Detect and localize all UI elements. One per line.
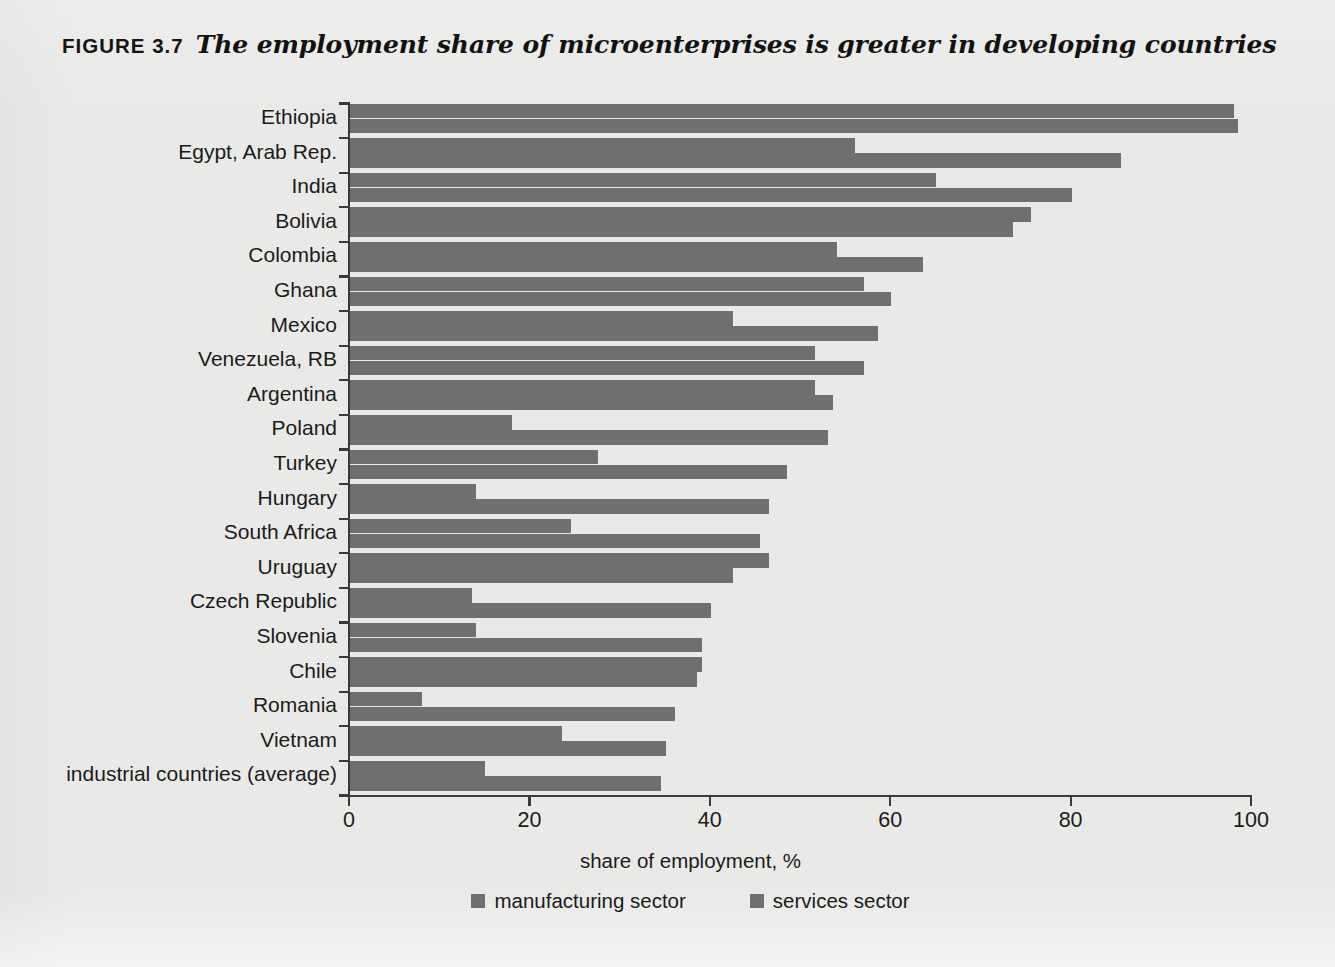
bar-manufacturing <box>350 623 476 638</box>
chart-row: Uruguay <box>349 553 1251 588</box>
x-axis-tick <box>528 795 530 806</box>
legend-label: manufacturing sector <box>494 889 685 913</box>
chart-row: Ghana <box>349 276 1251 311</box>
y-axis-tick <box>339 656 350 658</box>
bar-services <box>350 395 833 410</box>
plot-area: EthiopiaEgypt, Arab Rep.IndiaBoliviaColo… <box>349 103 1251 795</box>
bar-services <box>350 776 661 791</box>
category-label: Vietnam <box>260 728 337 752</box>
x-axis-tick-label: 0 <box>343 808 355 833</box>
category-label: Turkey <box>274 451 337 475</box>
category-label: Poland <box>272 416 337 440</box>
chart-row: Vietnam <box>349 726 1251 761</box>
y-axis-tick <box>339 518 350 520</box>
bar-services <box>350 361 864 376</box>
legend-item-manufacturing: manufacturing sector <box>471 889 685 913</box>
y-axis-tick <box>339 760 350 762</box>
legend-label: services sector <box>773 889 910 913</box>
category-label: Mexico <box>270 313 337 337</box>
y-axis-tick <box>339 345 350 347</box>
bar-manufacturing <box>350 415 512 430</box>
y-axis-tick <box>339 379 350 381</box>
y-axis-tick <box>339 448 350 450</box>
y-axis-tick <box>339 414 350 416</box>
chart-row: Chile <box>349 657 1251 692</box>
category-label: Hungary <box>258 486 337 510</box>
y-axis-tick <box>339 275 350 277</box>
legend-swatch-icon <box>471 894 485 908</box>
x-axis-line <box>348 795 1252 797</box>
x-axis-tick <box>709 795 711 806</box>
bar-manufacturing <box>350 104 1234 119</box>
category-label: Romania <box>253 693 337 717</box>
y-axis-tick <box>339 552 350 554</box>
x-axis-tick-label: 100 <box>1233 808 1269 833</box>
bar-manufacturing <box>350 277 864 292</box>
bar-manufacturing <box>350 484 476 499</box>
chart-row: Czech Republic <box>349 587 1251 622</box>
category-label: Chile <box>289 659 337 683</box>
y-axis-tick <box>339 137 350 139</box>
y-axis-tick <box>339 691 350 693</box>
x-axis-tick-label: 80 <box>1059 808 1083 833</box>
bar-services <box>350 534 760 549</box>
bar-services <box>350 153 1121 168</box>
category-label: Bolivia <box>275 209 337 233</box>
bar-manufacturing <box>350 553 769 568</box>
category-label: Ghana <box>274 278 337 302</box>
chart-row: Bolivia <box>349 207 1251 242</box>
bar-services <box>350 222 1013 237</box>
chart-row: Romania <box>349 691 1251 726</box>
chart-row: Argentina <box>349 380 1251 415</box>
y-axis-tick <box>339 483 350 485</box>
category-label: Uruguay <box>258 555 337 579</box>
chart-row: Turkey <box>349 449 1251 484</box>
chart-row: Mexico <box>349 311 1251 346</box>
bar-manufacturing <box>350 761 485 776</box>
category-label: Colombia <box>248 243 337 267</box>
chart-row: South Africa <box>349 518 1251 553</box>
bar-services <box>350 257 923 272</box>
bar-services <box>350 603 711 618</box>
y-axis-tick <box>339 172 350 174</box>
x-axis-tick <box>348 795 350 806</box>
chart-row: Poland <box>349 414 1251 449</box>
category-label: Ethiopia <box>261 105 337 129</box>
bar-manufacturing <box>350 346 815 361</box>
legend-swatch-icon <box>750 894 764 908</box>
chart-row: Ethiopia <box>349 103 1251 138</box>
chart-row: Venezuela, RB <box>349 345 1251 380</box>
bar-manufacturing <box>350 242 837 257</box>
bar-manufacturing <box>350 519 571 534</box>
category-label: Egypt, Arab Rep. <box>178 140 337 164</box>
bar-chart: EthiopiaEgypt, Arab Rep.IndiaBoliviaColo… <box>0 0 1335 967</box>
bar-manufacturing <box>350 692 422 707</box>
y-axis-tick <box>339 621 350 623</box>
bar-manufacturing <box>350 207 1031 222</box>
bar-services <box>350 119 1238 134</box>
x-axis-tick-label: 60 <box>878 808 902 833</box>
bar-manufacturing <box>350 380 815 395</box>
bar-services <box>350 568 733 583</box>
bar-services <box>350 499 769 514</box>
y-axis-tick <box>339 725 350 727</box>
bar-manufacturing <box>350 138 855 153</box>
bar-services <box>350 465 787 480</box>
chart-row: Egypt, Arab Rep. <box>349 138 1251 173</box>
category-label: Argentina <box>247 382 337 406</box>
legend-item-services: services sector <box>750 889 910 913</box>
bar-services <box>350 638 702 653</box>
x-axis-tick-label: 20 <box>517 808 541 833</box>
bar-services <box>350 292 891 307</box>
bar-services <box>350 672 697 687</box>
bar-manufacturing <box>350 311 733 326</box>
category-label: industrial countries (average) <box>66 762 337 786</box>
category-label: Czech Republic <box>190 589 337 613</box>
bar-services <box>350 707 675 722</box>
chart-legend: manufacturing sectorservices sector <box>0 889 1335 913</box>
chart-row: Colombia <box>349 241 1251 276</box>
category-label: Slovenia <box>256 624 337 648</box>
chart-row: Slovenia <box>349 622 1251 657</box>
x-axis-tick-label: 40 <box>698 808 722 833</box>
bar-services <box>350 741 666 756</box>
